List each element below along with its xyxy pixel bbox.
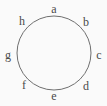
circle-label-f: f — [22, 79, 26, 91]
circle-label-b: b — [83, 16, 89, 28]
circle-shape — [17, 16, 91, 90]
circle-label-h: h — [19, 15, 25, 27]
circle-label-c: c — [96, 49, 101, 61]
circle-label-e: e — [51, 90, 56, 102]
circle-diagram: a b c d e f g h — [0, 0, 107, 106]
circle-label-a: a — [51, 3, 56, 15]
circle-label-d: d — [83, 80, 89, 92]
circle-label-g: g — [5, 49, 11, 61]
